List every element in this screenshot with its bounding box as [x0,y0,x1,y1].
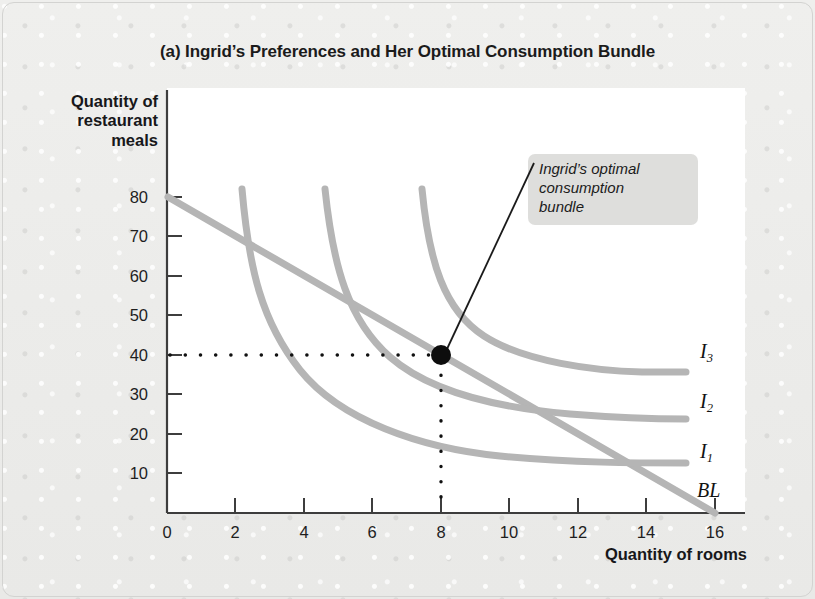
plot-graphics [0,0,815,599]
indifference-curve-i1 [242,189,686,463]
x-tick-marks [235,498,715,513]
figure-root: (a) Ingrid’s Preferences and Her Optimal… [0,0,815,599]
y-tick-marks [167,197,182,473]
callout-leader-line [447,163,534,349]
indifference-curve-i3 [422,189,686,372]
optimal-bundle-point [431,345,451,365]
